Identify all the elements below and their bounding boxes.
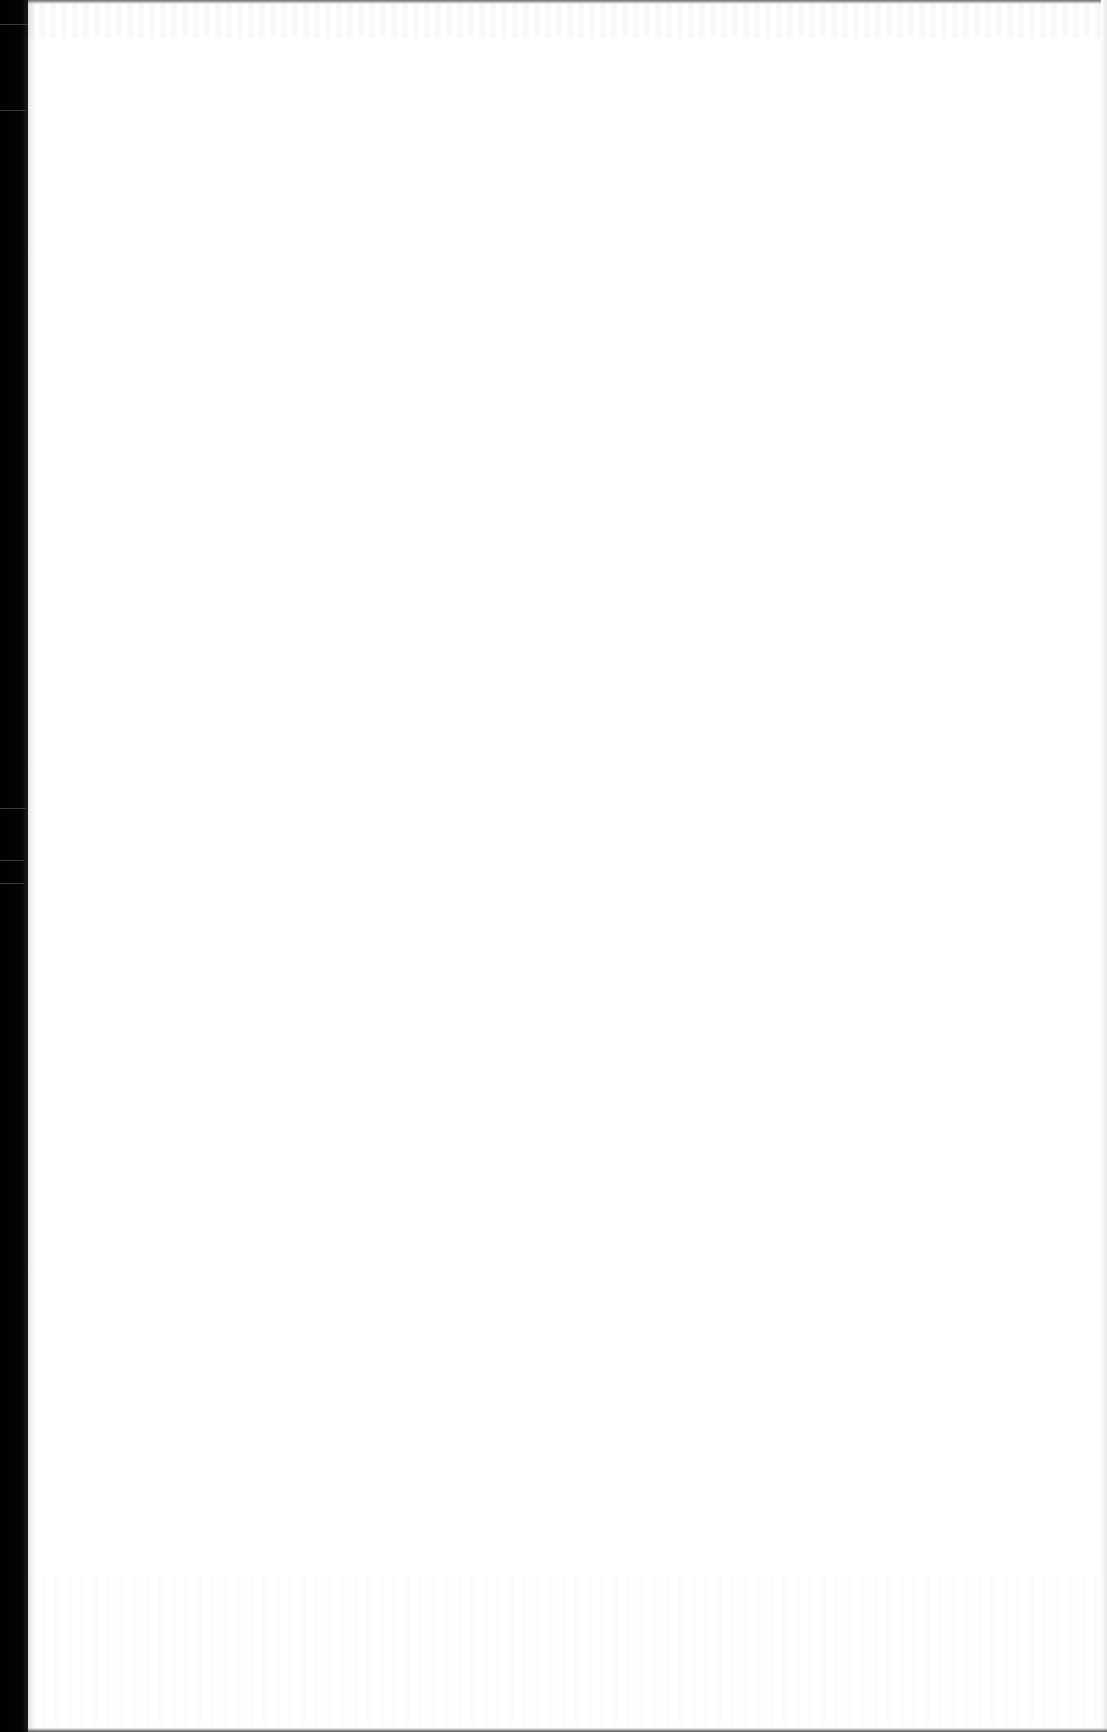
bleed-through-top [28,4,1107,38]
blank-page [28,0,1107,1732]
scan-streak [0,110,26,111]
scan-streak [0,860,24,861]
scan-streak [0,883,24,884]
bleed-through-bottom [28,1576,1107,1726]
page-text [28,0,29,1]
scanned-document [0,0,1107,1732]
scan-streak [0,808,26,809]
scan-streak [0,24,28,25]
scanner-background-edge [0,0,30,1732]
page-right-edge [1101,0,1107,1732]
